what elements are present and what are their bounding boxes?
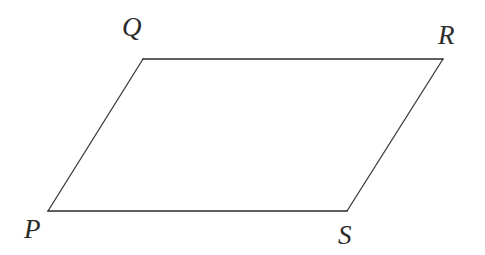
- vertex-label-R: R: [438, 22, 455, 49]
- figure-canvas: P Q R S: [0, 0, 485, 255]
- vertex-label-Q: Q: [122, 14, 142, 41]
- parallelogram-drawing: [0, 0, 485, 255]
- vertex-label-S: S: [338, 222, 352, 249]
- vertex-label-P: P: [24, 216, 41, 243]
- canvas-background: [0, 0, 485, 255]
